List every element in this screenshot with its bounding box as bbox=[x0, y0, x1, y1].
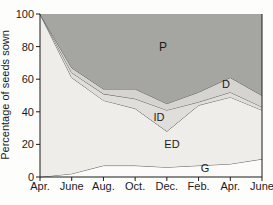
y-tick-label: 100 bbox=[16, 8, 34, 20]
chart-canvas: 020406080100Apr.JuneAug.Oct.Dec.Feb.Apr.… bbox=[0, 0, 273, 205]
region-label-ED: ED bbox=[164, 138, 179, 150]
region-label-ID: ID bbox=[154, 111, 165, 123]
x-tick-label: Apr. bbox=[30, 180, 50, 192]
x-tick-label: June bbox=[250, 180, 273, 192]
y-tick-label: 40 bbox=[22, 106, 34, 118]
region-label-D: D bbox=[222, 78, 230, 90]
x-tick-label: June bbox=[60, 180, 84, 192]
y-tick-label: 20 bbox=[22, 138, 34, 150]
region-label-P: P bbox=[159, 40, 167, 54]
y-tick-label: 80 bbox=[22, 41, 34, 53]
x-tick-label: Apr. bbox=[220, 180, 240, 192]
y-axis-title: Percentage of seeds sown bbox=[0, 30, 11, 160]
x-tick-label: Feb. bbox=[188, 180, 210, 192]
seed-fate-area-chart: 020406080100Apr.JuneAug.Oct.Dec.Feb.Apr.… bbox=[0, 0, 273, 205]
x-tick-label: Dec. bbox=[156, 180, 179, 192]
x-tick-label: Oct. bbox=[125, 180, 145, 192]
x-tick-label: Aug. bbox=[92, 180, 115, 192]
region-label-G: G bbox=[201, 162, 210, 174]
y-tick-label: 60 bbox=[22, 73, 34, 85]
